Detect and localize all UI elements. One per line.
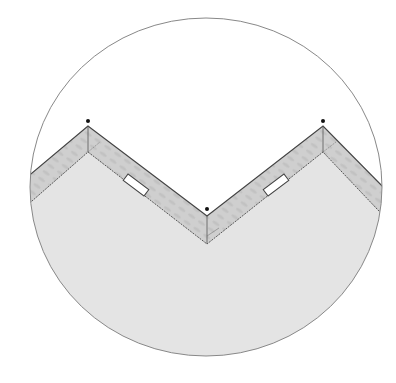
left-peak-dot xyxy=(86,119,90,123)
fabric-body xyxy=(0,152,396,383)
center-valley-dot xyxy=(205,207,209,211)
right-peak-dot xyxy=(321,119,325,123)
sewing-diagram xyxy=(0,0,396,383)
